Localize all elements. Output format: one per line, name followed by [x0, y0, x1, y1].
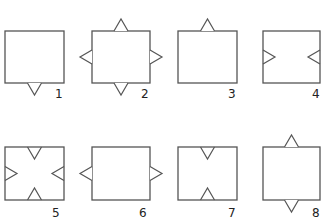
- figure-5: [5, 147, 64, 200]
- triangle-bottom-out-shape: [28, 83, 42, 95]
- square-shape: [5, 147, 64, 200]
- figure-label: 8: [312, 207, 320, 219]
- triangle-right-in-shape: [308, 50, 320, 64]
- square-shape: [263, 147, 320, 200]
- figure-label: 7: [228, 207, 236, 219]
- triangle-top-out-shape: [201, 19, 215, 31]
- square-shape: [5, 31, 64, 83]
- figure-6: [80, 147, 162, 200]
- triangle-right-in-shape: [52, 167, 64, 181]
- triangle-bottom-out-shape: [114, 83, 128, 95]
- figure-label: 1: [55, 88, 63, 100]
- triangle-bottom-out-shape: [285, 200, 299, 212]
- triangle-right-out-shape: [150, 50, 162, 64]
- triangle-left-out-shape: [80, 50, 92, 64]
- triangle-left-in-shape: [263, 50, 275, 64]
- diagram-svg: [0, 0, 325, 221]
- triangle-left-in-shape: [5, 167, 17, 181]
- square-shape: [178, 147, 237, 200]
- figure-1: [5, 31, 64, 95]
- figure-2: [80, 19, 162, 95]
- figure-7: [178, 147, 237, 200]
- figure-label: 2: [141, 88, 149, 100]
- square-shape: [92, 31, 150, 83]
- square-shape: [263, 31, 320, 83]
- triangle-left-out-shape: [80, 167, 92, 181]
- triangle-bottom-in-shape: [201, 188, 215, 200]
- figure-8: [263, 135, 320, 212]
- triangle-right-out-shape: [150, 167, 162, 181]
- triangle-top-in-shape: [28, 147, 42, 159]
- figure-4: [263, 31, 320, 83]
- square-shape: [178, 31, 237, 83]
- triangle-top-in-shape: [201, 147, 215, 159]
- triangle-top-out-shape: [285, 135, 299, 147]
- triangle-bottom-in-shape: [28, 188, 42, 200]
- figure-label: 6: [139, 207, 147, 219]
- triangle-top-out-shape: [114, 19, 128, 31]
- square-shape: [92, 147, 150, 200]
- figure-3: [178, 19, 237, 83]
- figure-label: 4: [312, 88, 320, 100]
- figure-label: 5: [52, 207, 60, 219]
- diagram-canvas: 12345678: [0, 0, 325, 221]
- figure-label: 3: [228, 88, 236, 100]
